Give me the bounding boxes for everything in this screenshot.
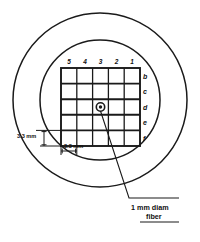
grid-row-label-b: b — [143, 73, 153, 80]
fiber-marker-dot — [99, 105, 102, 108]
grid-column-label-5: 5 — [64, 59, 74, 66]
vertical-dimension-label: 3.3 mm — [17, 134, 36, 140]
grid-row-label-d: d — [143, 104, 153, 111]
grid-column-label-4: 4 — [80, 59, 90, 66]
grid-row-label-e: e — [143, 119, 153, 126]
horizontal-dimension-label: 3.3 mm — [64, 144, 83, 150]
callout-label-line1: 1 mm diam — [131, 204, 169, 211]
grid-column-label-3: 3 — [96, 59, 106, 66]
figure-drawing — [0, 0, 200, 242]
figure-root: 5 4 3 2 1 b c d e f 3.3 mm 3.3 mm 1 mm d… — [0, 0, 200, 242]
grid-column-label-2: 2 — [112, 59, 122, 66]
callout-label-line2: fiber — [146, 213, 162, 220]
grid-row-label-c: c — [143, 88, 153, 95]
grid-row-label-f: f — [143, 135, 153, 142]
grid-column-label-1: 1 — [127, 59, 137, 66]
